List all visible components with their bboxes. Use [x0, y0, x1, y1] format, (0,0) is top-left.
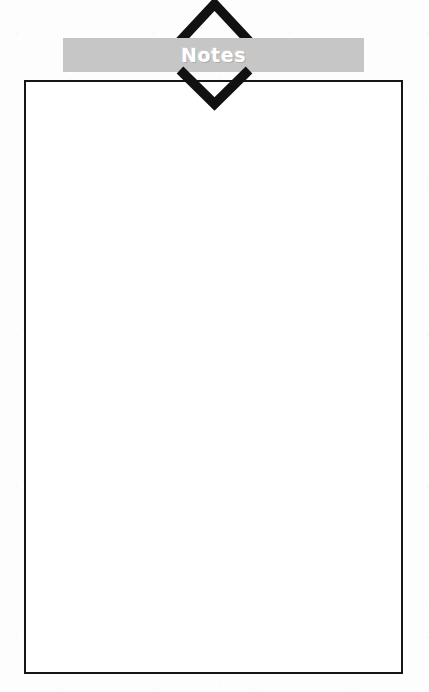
notes-page: Notes — [0, 0, 429, 692]
chevron-down-icon — [0, 62, 429, 112]
notes-box[interactable] — [24, 80, 403, 674]
notes-writing-area[interactable] — [26, 82, 401, 672]
